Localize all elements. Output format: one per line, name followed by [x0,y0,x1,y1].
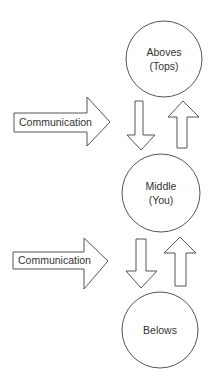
circle-aboves [126,21,202,97]
communication-arrow-2-label: Communication [18,254,91,266]
node-belows-label: Belows [143,324,177,336]
down-arrow-icon [126,239,157,288]
node-middle-line2: (You) [149,194,174,206]
communication-arrow-1: Communication [14,97,110,146]
node-aboves-line2: (Tops) [149,60,178,72]
node-belows: Belows [122,292,198,368]
down-arrow-icon [127,101,155,150]
communication-diagram: Aboves (Tops) Communication Middle (You)… [0,0,210,381]
node-middle: Middle (You) [122,154,200,232]
circle-middle [122,154,200,232]
communication-arrow-1-label: Communication [19,116,92,128]
node-aboves-line1: Aboves [146,46,181,58]
communication-arrow-2: Communication [13,238,108,289]
node-aboves: Aboves (Tops) [126,21,202,97]
up-arrow-icon [168,101,199,148]
node-middle-line1: Middle [146,180,177,192]
up-arrow-icon [164,237,196,286]
